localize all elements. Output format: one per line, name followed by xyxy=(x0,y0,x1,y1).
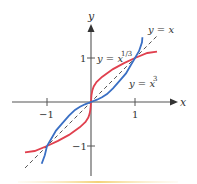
cube-label-main: y = x xyxy=(128,78,155,89)
footer-rule xyxy=(18,181,178,183)
y-axis-arrow-icon xyxy=(88,24,95,32)
cube-label-sup: 3 xyxy=(153,75,157,83)
x-axis-label: x xyxy=(180,96,187,109)
y-axis-label: y xyxy=(87,10,95,23)
cube-root-label-sup: 1/3 xyxy=(121,50,132,58)
x-tick-label-neg1: −1 xyxy=(39,109,54,120)
x-axis-arrow-icon xyxy=(170,99,178,106)
cube-root-label-main: y = x xyxy=(96,53,123,64)
identity-label: y = x xyxy=(147,24,174,35)
y-tick-label-pos1: 1 xyxy=(80,53,86,64)
cube-label: y = x 3 xyxy=(128,75,157,89)
x-tick-label-pos1: 1 xyxy=(132,109,138,120)
function-plot: y x −1 1 1 −1 y = x y = x 1/3 y = x 3 xyxy=(0,0,197,184)
y-tick-label-neg1: −1 xyxy=(72,141,87,152)
